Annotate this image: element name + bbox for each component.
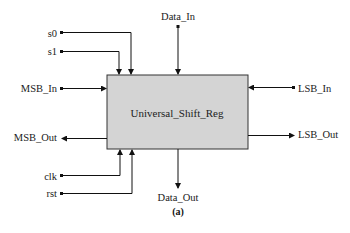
msb-in-pin-icon	[60, 87, 63, 90]
clk-wire	[63, 150, 120, 176]
data-in-pin-icon	[177, 25, 180, 28]
s1-wire	[63, 52, 119, 75]
rst-wire	[63, 150, 132, 194]
clk-pin-icon	[60, 174, 63, 177]
s0-label: s0	[48, 28, 57, 39]
data-out-label: Data_Out	[158, 192, 199, 203]
rst-pin-icon	[60, 192, 63, 195]
lsb-out-label: LSB_Out	[298, 129, 338, 140]
figure-caption: (a)	[172, 206, 184, 218]
s1-label: s1	[48, 46, 57, 57]
lsb-in-label: LSB_In	[298, 83, 332, 94]
s1-pin-icon	[60, 50, 63, 53]
msb-in-label: MSB_In	[21, 83, 58, 94]
data-in-label: Data_In	[161, 11, 196, 22]
block-label: Universal_Shift_Reg	[131, 107, 224, 119]
s0-wire	[63, 33, 131, 75]
rst-label: rst	[47, 188, 58, 199]
s0-pin-icon	[60, 31, 63, 34]
diagram-canvas: Universal_Shift_Reg s0 s1 MSB_In Data_In…	[0, 0, 350, 233]
block-diagram: Universal_Shift_Reg s0 s1 MSB_In Data_In…	[0, 0, 350, 233]
msb-out-label: MSB_Out	[14, 132, 57, 143]
lsb-in-pin-icon	[292, 86, 295, 89]
clk-label: clk	[44, 171, 58, 182]
